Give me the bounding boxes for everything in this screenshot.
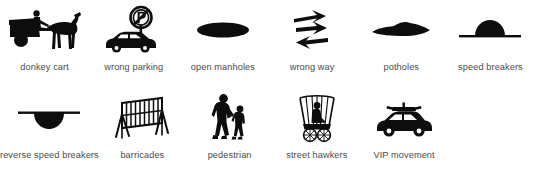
pictogram-item-wrong-parking: wrong parking (89, 4, 178, 86)
pictogram-row-1: donkey cart (0, 4, 535, 86)
pictogram-item-barricades: barricades (99, 92, 186, 172)
pictogram-item-vip-movement: VIP movement (360, 92, 447, 172)
wrong-way-arrows-icon (268, 4, 357, 56)
pothole-icon (357, 4, 446, 56)
pictogram-item-pedestrian: pedestrian (186, 92, 273, 172)
pictogram-label: reverse speed breakers (0, 149, 99, 161)
pictogram-label: potholes (384, 61, 420, 73)
street-hawker-cart-icon (273, 92, 360, 144)
pictogram-label: wrong parking (104, 61, 163, 73)
pictogram-item-speed-breakers: speed breakers (446, 4, 535, 86)
pictogram-item-donkey-cart: donkey cart (0, 4, 89, 86)
no-parking-sign-with-car-icon (89, 4, 178, 56)
pictogram-label: street hawkers (286, 149, 347, 161)
pictogram-label: donkey cart (20, 61, 69, 73)
pictogram-item-potholes: potholes (357, 4, 446, 86)
pictogram-item-reverse-speed-breakers: reverse speed breakers (0, 92, 99, 172)
donkey-cart-icon (0, 4, 89, 56)
pedestrian-adult-child-icon (186, 92, 273, 144)
pictogram-item-open-manholes: open manholes (178, 4, 267, 86)
pictogram-item-wrong-way: wrong way (268, 4, 357, 86)
pictogram-label: VIP movement (373, 149, 434, 161)
pictogram-label: wrong way (290, 61, 335, 73)
row-2-spacer (448, 92, 535, 172)
barricade-icon (99, 92, 186, 144)
pictogram-label: barricades (120, 149, 164, 161)
pictogram-label: open manholes (191, 61, 255, 73)
road-hazard-pictogram-sheet: donkey cart (0, 0, 535, 172)
reverse-speed-breaker-dip-icon (0, 92, 99, 144)
pictogram-row-2: reverse speed breakers (0, 92, 535, 172)
pictogram-label: speed breakers (458, 61, 523, 73)
open-manhole-ellipse-icon (178, 4, 267, 56)
pictogram-label: pedestrian (208, 149, 252, 161)
pictogram-item-street-hawkers: street hawkers (273, 92, 360, 172)
vip-escort-car-icon (360, 92, 447, 144)
speed-breaker-hump-icon (446, 4, 535, 56)
